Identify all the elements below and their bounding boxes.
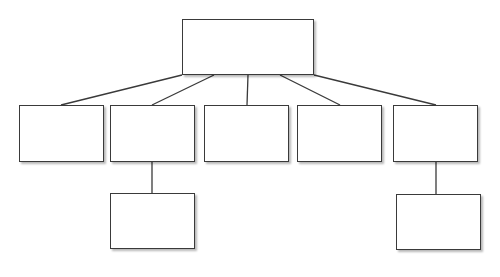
node-child-2 <box>110 105 195 162</box>
connector-root-to-child-3 <box>247 75 248 105</box>
node-grandchild-5 <box>396 194 481 250</box>
node-child-4 <box>297 105 382 162</box>
node-grandchild-2 <box>110 193 195 249</box>
node-root <box>182 19 314 75</box>
connector-root-to-child-1 <box>61 75 182 105</box>
node-child-1 <box>19 105 104 162</box>
node-child-3 <box>204 105 289 162</box>
node-child-5 <box>393 105 478 162</box>
